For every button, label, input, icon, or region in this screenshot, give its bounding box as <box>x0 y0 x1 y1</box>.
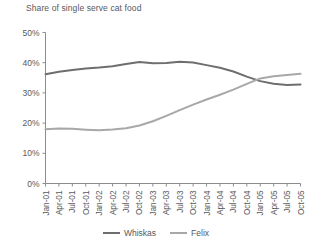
y-axis-tick-label: 30% <box>22 88 39 98</box>
legend-item-whiskas[interactable]: Whiskas <box>103 228 156 238</box>
x-axis-tick-label: Jul-01 <box>68 190 77 213</box>
y-axis-tick-label: 50% <box>22 28 39 38</box>
x-axis-tick-label: Oct-04 <box>243 190 252 215</box>
legend-swatch-felix <box>170 232 187 234</box>
x-axis-tick-label: Oct-05 <box>297 190 306 215</box>
x-axis-tick-label: Jul-02 <box>122 190 131 213</box>
x-axis-tick-label: Apr-03 <box>162 190 171 215</box>
x-axis-tick-label: Apr-04 <box>216 190 225 215</box>
x-axis-tick-label: Oct-01 <box>82 190 91 215</box>
y-axis-tick-label: 10% <box>22 148 39 158</box>
x-axis-tick-label: Jul-05 <box>283 190 292 213</box>
x-axis-tick-label: Jan-03 <box>149 190 158 215</box>
x-axis-tick-label: Jan-02 <box>95 190 104 215</box>
x-axis-tick-label: Jan-04 <box>203 190 212 215</box>
y-axis-tick-label: 40% <box>22 58 39 68</box>
x-axis-tick-label: Apr-02 <box>109 190 118 215</box>
x-axis-tick-label: Jul-04 <box>229 190 238 213</box>
y-axis-labels: 0%10%20%30%40%50% <box>22 28 39 189</box>
x-axis-tick-label: Jan-01 <box>42 190 51 215</box>
series-line-whiskas <box>46 62 301 85</box>
y-axis-tick-label: 20% <box>22 118 39 128</box>
legend-swatch-whiskas <box>103 232 120 234</box>
x-axis-tick-label: Jul-03 <box>176 190 185 213</box>
x-axis-tick-label: Jan-05 <box>256 190 265 215</box>
chart-screenshot: Share of single serve cat food 0%10%20%3… <box>0 0 312 248</box>
data-series-group <box>46 62 301 131</box>
legend-item-felix[interactable]: Felix <box>170 228 209 238</box>
x-axis-tick-label: Oct-02 <box>135 190 144 215</box>
x-axis-labels: Jan-01Apr-01Jul-01Oct-01Jan-02Apr-02Jul-… <box>42 190 306 215</box>
plot-area: 0%10%20%30%40%50% Jan-01Apr-01Jul-01Oct-… <box>0 0 312 248</box>
line-chart-svg: 0%10%20%30%40%50% Jan-01Apr-01Jul-01Oct-… <box>0 0 312 248</box>
legend-label: Felix <box>191 228 209 238</box>
chart-legend: WhiskasFelix <box>0 228 312 238</box>
x-axis-tick-label: Apr-01 <box>55 190 64 215</box>
y-axis-tick-label: 0% <box>27 179 40 189</box>
legend-label: Whiskas <box>124 228 156 238</box>
x-axis-tick-label: Apr-05 <box>270 190 279 215</box>
x-axis-tick-label: Oct-03 <box>189 190 198 215</box>
